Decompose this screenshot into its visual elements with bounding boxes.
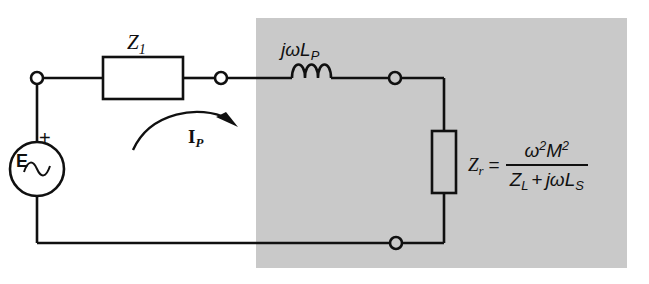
reflected-impedance-formula: Zr = ω2M2 ZL+jωLS [468,140,588,191]
label-source-e: E [16,152,28,170]
formula-equals: = [489,154,500,176]
z1-impedance-box [103,57,183,99]
formula-fraction: ω2M2 ZL+jωLS [506,140,588,191]
formula-lhs: Zr [468,154,484,176]
label-ip-subscript: P [195,135,203,150]
terminal-secondary-bottom [390,237,402,249]
label-omega: ω [285,39,300,60]
label-L: L [300,39,311,60]
label-inductor-jwlp: jωLP [281,40,319,59]
formula-denominator: ZL+jωLS [506,166,588,191]
denominator-z: Z [510,169,522,190]
numerator-m-exponent: 2 [562,139,569,153]
numerator-omega-exponent: 2 [539,139,546,153]
denominator-l: L [565,169,576,190]
terminal-primary-right [215,72,227,84]
denominator-l-subscript: S [575,178,584,193]
label-L-subscript: P [311,48,320,63]
denominator-plus: + [529,169,546,190]
mesh-current-arrow [133,112,228,150]
formula-lhs-subscript: r [479,163,484,178]
circuit-diagram-page: Z1 jωLP E + IP Zr = ω2M2 ZL+jωLS [0,0,649,284]
denominator-z-subscript: L [521,178,528,193]
denominator-omega: ω [550,169,565,190]
label-z1: Z1 [127,32,146,53]
label-mesh-current: IP [188,127,203,146]
terminal-top-left [31,72,43,84]
label-source-polarity: + [39,128,51,148]
terminal-secondary-top [389,72,401,84]
numerator-omega: ω [524,140,539,161]
zr-impedance-box [432,131,456,193]
numerator-m: M [546,140,562,161]
formula-numerator: ω2M2 [518,140,575,164]
label-z1-subscript: 1 [139,41,146,57]
